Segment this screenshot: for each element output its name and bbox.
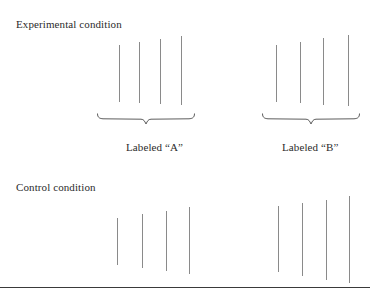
stimulus-line [276,45,277,102]
group-brace-group-b [262,113,360,125]
stimulus-line [117,218,118,265]
stimulus-line [349,196,350,283]
stimulus-line [326,200,327,280]
condition-label-experimental: Experimental condition [16,18,122,30]
stimulus-line [348,35,349,106]
group-label-group-b: Labeled “B” [282,141,338,153]
stimulus-line [278,206,279,272]
stimulus-line [181,36,182,105]
stimulus-line [166,211,167,271]
condition-label-control: Control condition [16,181,96,193]
stimulus-line [160,39,161,104]
stimulus-line [119,45,120,102]
stimulus-line [189,207,190,274]
stimulus-line [300,42,301,103]
bottom-rule [0,287,370,288]
group-label-group-a: Labeled “A” [126,141,183,153]
stimulus-line [323,38,324,105]
stimulus-line [142,214,143,268]
stimulus-line [139,42,140,103]
experiment-figure: Experimental conditionLabeled “A”Labeled… [0,0,370,295]
stimulus-line [302,203,303,276]
group-brace-group-a [97,113,195,125]
